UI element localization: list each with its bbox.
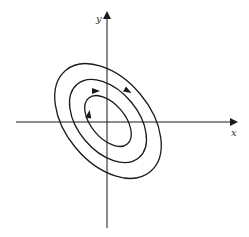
x-axis-label: x	[231, 127, 237, 138]
y-axis-label: y	[95, 13, 102, 24]
orbit-direction-arrow-icon	[85, 110, 92, 119]
orbit-direction-arrow-icon	[92, 88, 100, 94]
orbit-middle	[54, 65, 162, 177]
phase-portrait-diagram: x y	[0, 0, 249, 237]
orbit-inner	[76, 87, 141, 155]
orbit-outer	[33, 43, 182, 198]
orbit-group	[33, 43, 182, 198]
